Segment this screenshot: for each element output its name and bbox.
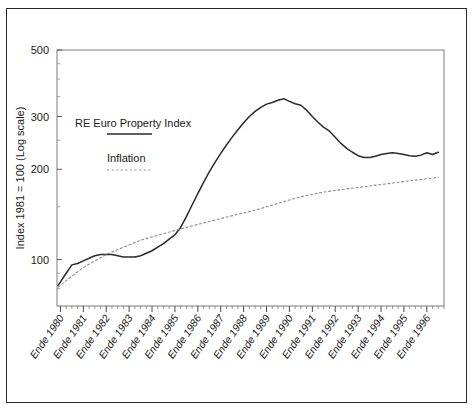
y-axis-tick-label: 100	[31, 254, 49, 266]
y-axis-tick-label: 300	[31, 111, 49, 123]
y-axis-tick-label: 500	[31, 44, 49, 56]
figure-frame: 500300200100Index 1981 = 100 (Log scale)…	[6, 8, 467, 403]
y-axis-title: Index 1981 = 100 (Log scale)	[14, 107, 26, 250]
series-line-inflation	[58, 177, 438, 287]
chart-plot: 500300200100Index 1981 = 100 (Log scale)…	[7, 9, 468, 404]
legend-label-re-euro-property-index: RE Euro Property Index	[75, 117, 192, 129]
y-axis-tick-label: 200	[31, 163, 49, 175]
plot-area-border	[57, 50, 444, 306]
legend-label-inflation: Inflation	[107, 152, 146, 164]
